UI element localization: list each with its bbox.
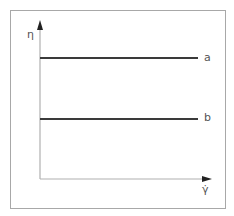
series-a-label: a [204, 52, 211, 63]
y-axis-label: η [27, 29, 34, 40]
x-axis-label: γ̇ [202, 184, 209, 195]
y-axis-arrow-icon [37, 20, 43, 30]
x-axis-arrow-icon [202, 176, 212, 182]
series-b-label: b [204, 112, 211, 123]
chart-plot [0, 0, 234, 216]
